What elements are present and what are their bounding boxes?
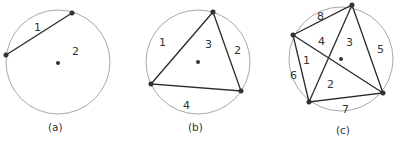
point [239, 89, 244, 94]
region-label: 2 [72, 45, 79, 58]
point [350, 3, 355, 8]
point [4, 53, 9, 58]
point [291, 33, 296, 38]
region-label: 1 [159, 36, 166, 49]
center-point [196, 60, 200, 64]
region-label: 5 [377, 43, 384, 56]
chord-a [6, 13, 72, 55]
point [70, 11, 75, 16]
panel-b: 1 2 3 4 (b) [146, 10, 250, 133]
region-label: 4 [183, 99, 190, 112]
region-label: 6 [290, 69, 297, 82]
center-point [56, 61, 60, 65]
caption-a: (a) [48, 121, 63, 133]
region-label: 7 [342, 103, 349, 116]
triangle-b [151, 12, 241, 91]
center-point [339, 57, 343, 61]
point [381, 91, 386, 96]
region-label: 1 [34, 21, 41, 34]
region-label: 8 [317, 10, 324, 23]
point [149, 82, 154, 87]
panel-a: 1 2 (a) [4, 10, 110, 133]
caption-c: (c) [336, 124, 350, 136]
region-label: 3 [205, 38, 212, 51]
region-label: 2 [327, 78, 334, 91]
point [307, 100, 312, 105]
panel-c: 1 2 3 4 5 6 7 8 (c) [289, 3, 393, 136]
region-label: 3 [346, 36, 353, 49]
region-label: 1 [303, 54, 310, 67]
region-label: 2 [234, 44, 241, 57]
region-label: 4 [318, 35, 325, 48]
caption-b: (b) [188, 121, 203, 133]
circle-regions-figure: 1 2 (a) 1 2 3 4 (b) 1 2 3 4 5 6 7 8 (c) [0, 0, 394, 141]
point [211, 10, 216, 15]
